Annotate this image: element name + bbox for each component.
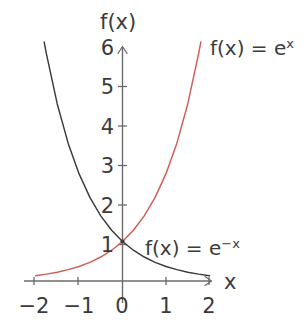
y-tick-label-1: 1 [101, 233, 114, 257]
x-tick-label-1: 1 [159, 294, 172, 318]
x-axis-title: x [224, 270, 236, 294]
y-tick-label-6: 6 [101, 36, 114, 60]
label-negative-exponential: f(x) = e−x [145, 236, 240, 260]
y-tick-label-2: 2 [101, 194, 114, 218]
y-tick-label-4: 4 [101, 115, 114, 139]
label-exponential-text: f(x) = e [210, 36, 286, 60]
y-axis-title: f(x) [100, 10, 136, 34]
x-tick-label-minus2: −2 [19, 294, 50, 318]
label-exponential-exponent: x [286, 36, 294, 51]
y-tick-label-3: 3 [101, 154, 114, 178]
x-tick-label-minus1: −1 [64, 294, 95, 318]
label-exponential: f(x) = ex [210, 36, 294, 60]
intersection-point [120, 239, 124, 243]
x-tick-label-0: 0 [115, 294, 128, 318]
x-tick-label-2: 2 [202, 294, 215, 318]
label-negative-exponential-exponent: −x [221, 236, 240, 251]
y-tick-label-5: 5 [101, 75, 114, 99]
exponential-functions-graph: 6 5 4 3 2 1 −2 −1 0 1 2 f(x) x f(x) = ex… [0, 0, 306, 330]
axes-group [24, 47, 212, 304]
svg-text:f(x) = ex: f(x) = ex [210, 36, 294, 60]
svg-text:f(x) = e−x: f(x) = e−x [145, 236, 240, 260]
label-negative-exponential-text: f(x) = e [145, 236, 221, 260]
x-tick-labels: −2 −1 0 1 2 [19, 294, 216, 318]
